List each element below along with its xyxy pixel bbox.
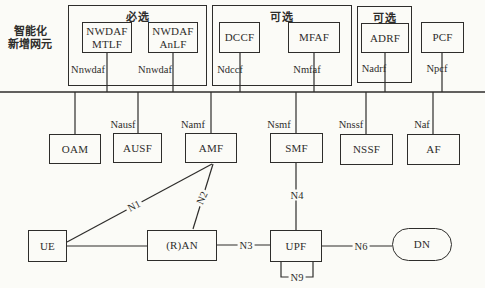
node-upf: UPF (270, 230, 322, 262)
iface-nnssf: Nnssf (339, 119, 364, 130)
iface-nadrf: Nadrf (362, 63, 387, 74)
iface-namf: Namf (181, 119, 205, 130)
node-amf: AMF (185, 133, 237, 163)
node-nwdaf-mtlf: NWDAF MTLF (82, 22, 132, 53)
iface-nausf: Nausf (110, 119, 135, 130)
iface-ndccf: Ndccf (217, 64, 243, 75)
ref-n4: N4 (289, 190, 306, 201)
node-ausf: AUSF (113, 133, 162, 163)
network-architecture-diagram: 智能化 新增网元 必选 可选 可选 NWDAF MTLF NWDAF AnLF … (0, 0, 485, 288)
node-nwdaf-anlf: NWDAF AnLF (148, 22, 198, 53)
ref-n6: N6 (353, 241, 370, 252)
ref-n9: N9 (289, 272, 306, 283)
node-adrf: ADRF (361, 23, 409, 53)
node-af: AF (407, 134, 460, 165)
node-ran: (R)AN (147, 230, 217, 261)
node-ue: UE (28, 230, 67, 262)
ref-n3: N3 (238, 240, 255, 251)
node-nssf: NSSF (340, 134, 393, 165)
iface-nnwdaf-mtlf: Nnwdaf (71, 64, 105, 75)
iface-nnwdaf-anlf: Nnwdaf (138, 64, 172, 75)
node-dn: DN (392, 228, 452, 261)
iface-nmfaf: Nmfaf (293, 64, 320, 75)
new-intelligent-elements-label: 智能化 新增网元 (4, 25, 56, 51)
node-oam: OAM (49, 134, 101, 164)
node-smf: SMF (270, 133, 323, 163)
node-dccf: DCCF (219, 22, 260, 53)
iface-naf: Naf (414, 119, 430, 130)
node-pcf: PCF (421, 22, 464, 53)
iface-nsmf: Nsmf (267, 119, 290, 130)
node-mfaf: MFAF (288, 22, 340, 53)
iface-npcf: Npcf (427, 63, 448, 74)
